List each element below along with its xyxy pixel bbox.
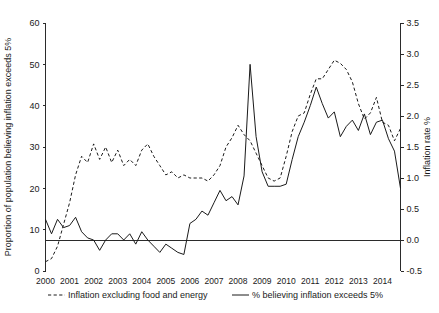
right-axis-tick-label: 0.0 <box>407 235 420 245</box>
right-axis-tick-label: 2.5 <box>407 80 420 90</box>
left-axis-tick-label: 20 <box>29 184 39 194</box>
chart-figure: 0102030405060 -0.50.00.51.01.52.02.53.03… <box>0 0 439 313</box>
series-line-2 <box>46 64 401 254</box>
x-axis-tick-label: 2004 <box>132 276 151 286</box>
x-axis-tick-label: 2012 <box>325 276 344 286</box>
left-axis: 0102030405060 <box>29 18 45 276</box>
left-axis-tick-label: 10 <box>29 225 39 235</box>
left-axis-tick-label: 40 <box>29 101 39 111</box>
right-axis-tick-label: 3.5 <box>407 18 420 28</box>
x-axis-tick-label: 2001 <box>60 276 79 286</box>
x-axis-tick-label: 2003 <box>108 276 127 286</box>
right-axis-tick-label: 1.5 <box>407 142 420 152</box>
right-axis-tick-label: 1.0 <box>407 173 420 183</box>
x-axis-tick-label: 2009 <box>253 276 272 286</box>
right-axis-tick-label: 2.0 <box>407 111 420 121</box>
left-axis-title: Proportion of population believing infla… <box>3 38 13 257</box>
right-axis: -0.50.00.51.01.52.02.53.03.5 <box>401 18 423 276</box>
line-chart-canvas: 0102030405060 -0.50.00.51.01.52.02.53.03… <box>0 0 439 313</box>
chart-legend: Inflation excluding food and energy% bel… <box>48 290 383 300</box>
left-axis-tick-label: 50 <box>29 60 39 70</box>
series-line-1 <box>46 60 401 262</box>
left-axis-tick-label: 0 <box>34 266 39 276</box>
right-axis-tick-label: 3.0 <box>407 49 420 59</box>
x-axis-tick-label: 2011 <box>301 276 320 286</box>
right-axis-tick-label: -0.5 <box>407 266 423 276</box>
x-axis-tick-label: 2000 <box>36 276 55 286</box>
x-axis-tick-label: 2007 <box>205 276 224 286</box>
x-axis-tick-label: 2005 <box>156 276 175 286</box>
x-axis-tick-label: 2014 <box>373 276 392 286</box>
right-axis-tick-label: 0.5 <box>407 204 420 214</box>
x-axis-tick-label: 2002 <box>84 276 103 286</box>
x-axis-tick-label: 2006 <box>180 276 199 286</box>
right-axis-title: Inflation rate % <box>422 117 432 177</box>
x-axis-tick-label: 2010 <box>277 276 296 286</box>
legend-label-1: Inflation excluding food and energy <box>68 290 208 300</box>
legend-label-2: % believing inflation exceeds 5% <box>252 290 383 300</box>
left-axis-tick-label: 30 <box>29 142 39 152</box>
x-axis: 2000200120022003200420052006200720082009… <box>36 240 400 286</box>
left-axis-tick-label: 60 <box>29 18 39 28</box>
series-group <box>46 60 401 262</box>
x-axis-tick-label: 2013 <box>349 276 368 286</box>
x-axis-tick-label: 2008 <box>229 276 248 286</box>
